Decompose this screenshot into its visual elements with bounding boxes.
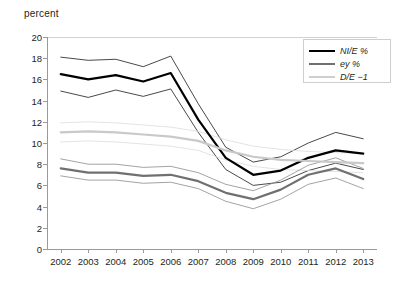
y-tick-mark-0 xyxy=(43,249,47,250)
x-tick-label-2011: 2011 xyxy=(298,256,318,267)
legend-item-1: ey % xyxy=(309,58,386,70)
x-tick-mark-2004 xyxy=(116,249,117,253)
legend-swatch-2 xyxy=(309,76,335,78)
y-tick-label-9: 18 xyxy=(31,53,42,64)
y-tick-label-3: 6 xyxy=(37,180,42,191)
y-tick-label-4: 8 xyxy=(37,159,42,170)
x-tick-mark-2011 xyxy=(308,249,309,253)
chart-figure: percent 02468101214161820 20022003200420… xyxy=(0,0,399,281)
x-tick-mark-2008 xyxy=(226,249,227,253)
series-line-ey-lower xyxy=(61,176,364,209)
y-tick-label-8: 16 xyxy=(31,74,42,85)
x-tick-label-2005: 2005 xyxy=(133,256,154,267)
series-line-d-e-1 xyxy=(61,131,364,163)
series-line-ey-upper xyxy=(61,158,364,191)
y-tick-label-10: 20 xyxy=(31,32,42,43)
x-axis-line xyxy=(47,249,377,250)
y-tick-label-5: 10 xyxy=(31,138,42,149)
x-tick-label-2007: 2007 xyxy=(188,256,209,267)
y-tick-label-6: 12 xyxy=(31,116,42,127)
x-tick-mark-2002 xyxy=(61,249,62,253)
y-tick-label-1: 2 xyxy=(37,222,42,233)
x-tick-mark-2003 xyxy=(88,249,89,253)
x-tick-label-2008: 2008 xyxy=(215,256,236,267)
x-tick-label-2010: 2010 xyxy=(270,256,291,267)
x-tick-mark-2006 xyxy=(171,249,172,253)
y-tick-label-2: 4 xyxy=(37,201,42,212)
y-axis-title: percent xyxy=(24,8,59,19)
chart-legend: NI/E %ey %D/E −1 xyxy=(303,39,391,83)
x-tick-mark-2010 xyxy=(281,249,282,253)
x-tick-mark-2007 xyxy=(198,249,199,253)
x-tick-label-2009: 2009 xyxy=(243,256,264,267)
legend-swatch-1 xyxy=(309,63,335,65)
x-tick-label-2012: 2012 xyxy=(325,256,346,267)
x-tick-label-2006: 2006 xyxy=(160,256,181,267)
x-tick-label-2002: 2002 xyxy=(50,256,71,267)
x-tick-label-2013: 2013 xyxy=(353,256,374,267)
series-line-ni-e- xyxy=(61,73,364,175)
x-tick-mark-2009 xyxy=(253,249,254,253)
x-tick-label-2003: 2003 xyxy=(78,256,99,267)
x-tick-mark-2012 xyxy=(336,249,337,253)
y-tick-label-7: 14 xyxy=(31,95,42,106)
x-tick-label-2004: 2004 xyxy=(105,256,126,267)
legend-swatch-0 xyxy=(309,50,335,52)
legend-item-0: NI/E % xyxy=(309,45,386,57)
legend-label-2: D/E −1 xyxy=(340,72,368,82)
legend-label-0: NI/E % xyxy=(340,46,368,56)
x-tick-mark-2005 xyxy=(143,249,144,253)
x-tick-mark-2013 xyxy=(363,249,364,253)
legend-item-2: D/E −1 xyxy=(309,71,386,83)
y-tick-label-0: 0 xyxy=(37,244,42,255)
legend-label-1: ey % xyxy=(340,59,360,69)
